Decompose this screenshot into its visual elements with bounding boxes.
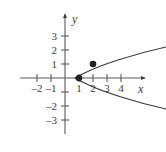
y-tick-label-3: 3 xyxy=(43,31,57,42)
y-axis xyxy=(61,14,69,134)
y-axis-name: y xyxy=(72,13,77,25)
y-tick-label-neg2: –2 xyxy=(38,101,57,112)
x-tick-label-neg1: –1 xyxy=(46,83,57,94)
y-tick-label-1: 1 xyxy=(43,59,57,70)
point-on-curve xyxy=(90,61,97,68)
y-tick-label-neg3: –3 xyxy=(38,115,57,126)
x-tick-label-2: 2 xyxy=(90,83,96,94)
x-tick-label-neg2: –2 xyxy=(32,83,43,94)
x-axis xyxy=(20,74,145,82)
y-tick-label-2: 2 xyxy=(43,45,57,56)
graph-figure: –2 –1 1 2 3 4 3 2 1 –2 –3 x y xyxy=(0,0,166,152)
point-vertex xyxy=(76,75,83,82)
coordinate-plane-svg xyxy=(0,0,166,152)
x-tick-label-1: 1 xyxy=(76,83,82,94)
x-tick-label-3: 3 xyxy=(104,83,110,94)
x-axis-name: x xyxy=(138,83,143,95)
x-tick-label-4: 4 xyxy=(118,83,124,94)
